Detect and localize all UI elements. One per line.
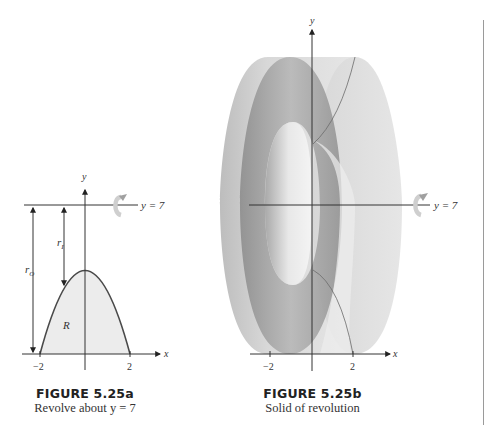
- x-axis-label: x: [163, 348, 169, 359]
- line-label: y = 7: [433, 199, 458, 211]
- figure-a-diagram: y x y = 7 −2 2 R rI rO: [22, 171, 169, 372]
- rotate-arrow-icon: [415, 193, 428, 215]
- region-label: R: [62, 319, 70, 331]
- x-axis-label: x: [392, 348, 398, 359]
- figure-b-title: FIGURE 5.25b: [255, 386, 370, 401]
- y-axis-label: y: [81, 171, 87, 182]
- tick-label-2: 2: [127, 361, 132, 372]
- figure-b-caption: Solid of revolution: [250, 401, 375, 416]
- r-inner-label: rI: [57, 236, 64, 251]
- y-axis-label: y: [309, 15, 315, 26]
- figure-b-diagram: y x y = 7 −2 2: [220, 15, 458, 372]
- figure-a-title: FIGURE 5.25a: [30, 386, 140, 401]
- figure-a-caption: Revolve about y = 7: [20, 401, 150, 416]
- page-margin-rule: [483, 20, 484, 425]
- figures-canvas: y x y = 7 −2 2 R rI rO y: [0, 0, 487, 431]
- line-label: y = 7: [140, 199, 165, 211]
- solid-inner-hole: [265, 122, 312, 285]
- tick-label-neg2: −2: [263, 361, 274, 372]
- tick-label-2: 2: [350, 361, 355, 372]
- tick-label-neg2: −2: [33, 361, 44, 372]
